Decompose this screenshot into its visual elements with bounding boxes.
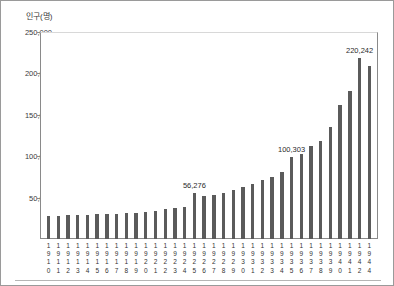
bar [173, 208, 176, 239]
bar [232, 190, 235, 239]
bar-item [345, 33, 354, 239]
bar-item [161, 33, 170, 239]
bar-item [200, 33, 209, 239]
x-axis-tick-digit: 1 [348, 242, 352, 250]
x-axis-tick-label: 1910 [44, 242, 53, 284]
bar-item [229, 33, 238, 239]
x-axis-tick-digit: 9 [86, 250, 90, 258]
x-axis-tick-digit: 0 [338, 267, 342, 275]
x-axis-tick-label: 1920 [141, 242, 150, 284]
x-axis-tick-label: 1915 [93, 242, 102, 284]
bar-item [238, 33, 247, 239]
x-axis-tick-label: 1929 [229, 242, 238, 284]
x-axis-tick-digit: 2 [163, 258, 167, 266]
x-axis-tick-label: 1939 [326, 242, 335, 284]
x-axis-tick-label: 1911 [54, 242, 63, 284]
x-axis-tick-digit: 4 [338, 258, 342, 266]
x-axis-tick-digit: 5 [290, 267, 294, 275]
bar-item [268, 33, 277, 239]
bar [105, 214, 108, 239]
x-axis-tick-digit: 9 [319, 250, 323, 258]
bar [329, 127, 332, 239]
x-axis-tick-label: 1944 [365, 242, 374, 284]
x-axis-tick-digit: 4 [368, 258, 372, 266]
x-axis-tick-digit: 1 [134, 258, 138, 266]
bar [76, 215, 79, 239]
x-axis-tick-digit: 4 [280, 267, 284, 275]
x-axis-tick-digit: 1 [57, 258, 61, 266]
bar [144, 212, 147, 239]
x-axis-tick-digit: 3 [173, 267, 177, 275]
x-axis-tick-digit: 1 [309, 242, 313, 250]
x-axis-tick-digit: 8 [319, 267, 323, 275]
x-axis-tick-digit: 2 [231, 258, 235, 266]
x-axis-tick-digit: 7 [115, 267, 119, 275]
x-axis-tick-digit: 9 [251, 250, 255, 258]
x-axis-tick-digit: 9 [202, 250, 206, 258]
x-axis-tick-label: 1923 [170, 242, 179, 284]
x-axis-tick-digit: 1 [105, 258, 109, 266]
bar [66, 215, 69, 239]
bar-item [141, 33, 150, 239]
x-axis-tick-digit: 9 [115, 250, 119, 258]
x-axis-tick-label: 1914 [83, 242, 92, 284]
x-axis-tick-digit: 9 [57, 250, 61, 258]
bar-item: 100,303 [287, 33, 296, 239]
x-axis-tick-digit: 1 [95, 242, 99, 250]
x-axis-tick-label: 1932 [258, 242, 267, 284]
x-axis-tick-digit: 9 [212, 250, 216, 258]
x-axis-tick-digit: 1 [66, 258, 70, 266]
bar [280, 172, 283, 239]
bar-item [54, 33, 63, 239]
x-axis-tick-digit: 1 [173, 242, 177, 250]
bar-item [93, 33, 102, 239]
x-axis-tick-digit: 9 [47, 250, 51, 258]
x-axis-tick-digit: 1 [57, 267, 61, 275]
x-axis-tick-digit: 3 [261, 258, 265, 266]
x-axis-tick-digit: 1 [134, 242, 138, 250]
bar-item [180, 33, 189, 239]
bar-item [131, 33, 140, 239]
bar-item [209, 33, 218, 239]
x-axis-tick-digit: 9 [261, 250, 265, 258]
x-axis-tick-digit: 0 [241, 267, 245, 275]
bar-item [297, 33, 306, 239]
x-axis-tick-label: 1916 [102, 242, 111, 284]
x-axis-tick-digit: 2 [163, 267, 167, 275]
x-axis-tick-digit: 3 [319, 258, 323, 266]
bar-item [248, 33, 257, 239]
bar-item [44, 33, 53, 239]
x-axis-tick-digit: 9 [193, 250, 197, 258]
bar-item: 56,276 [190, 33, 199, 239]
x-axis-tick-digit: 1 [105, 242, 109, 250]
bar [193, 193, 196, 239]
x-axis-tick-digit: 9 [76, 250, 80, 258]
bar [241, 187, 244, 239]
x-axis-tick-digit: 1 [261, 242, 265, 250]
x-axis-tick-digit: 1 [358, 242, 362, 250]
x-axis-tick-label: 1928 [219, 242, 228, 284]
bar-item [122, 33, 131, 239]
x-axis-tick-digit: 1 [290, 242, 294, 250]
x-axis-tick-digit: 3 [270, 258, 274, 266]
x-axis-tick-label: 1937 [306, 242, 315, 284]
x-axis-tick-label: 1921 [151, 242, 160, 284]
x-axis-tick-digit: 3 [329, 258, 333, 266]
x-axis-tick-label: 1918 [122, 242, 131, 284]
x-axis-tick-label: 1922 [161, 242, 170, 284]
x-axis-tick-digit: 2 [66, 267, 70, 275]
x-axis-tick-digit: 2 [183, 258, 187, 266]
x-axis-tick-digit: 1 [125, 258, 129, 266]
x-axis-tick-label: 1936 [297, 242, 306, 284]
x-axis-tick-label: 1925 [190, 242, 199, 284]
bar [134, 213, 137, 239]
bar-item [83, 33, 92, 239]
x-axis-tick-digit: 9 [368, 250, 372, 258]
x-axis-tick-digit: 2 [212, 258, 216, 266]
x-axis-tick-digit: 9 [290, 250, 294, 258]
x-axis-tick-digit: 1 [251, 242, 255, 250]
x-axis-tick-label: 1924 [180, 242, 189, 284]
bar [319, 141, 322, 239]
bar [125, 213, 128, 239]
x-axis-tick-digit: 9 [348, 250, 352, 258]
